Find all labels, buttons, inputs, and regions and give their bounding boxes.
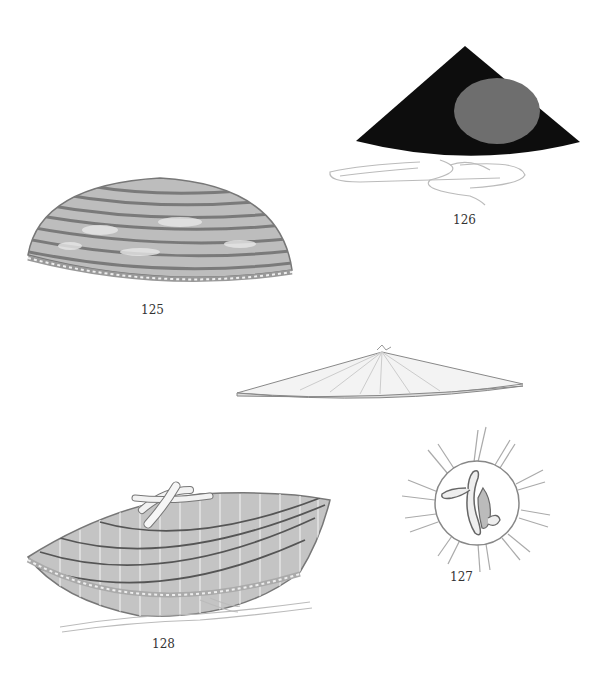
hat-128-illustration bbox=[0, 0, 612, 673]
figure-label-128: 128 bbox=[152, 637, 175, 651]
